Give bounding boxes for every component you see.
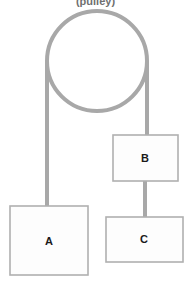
block-b-label: B xyxy=(141,152,149,164)
block-a-label: A xyxy=(45,235,53,247)
diagram-canvas xyxy=(0,0,191,283)
block-c-label: C xyxy=(140,233,148,245)
pulley-system-diagram: (pulley) A B C xyxy=(0,0,191,283)
pulley-wheel xyxy=(47,11,147,111)
